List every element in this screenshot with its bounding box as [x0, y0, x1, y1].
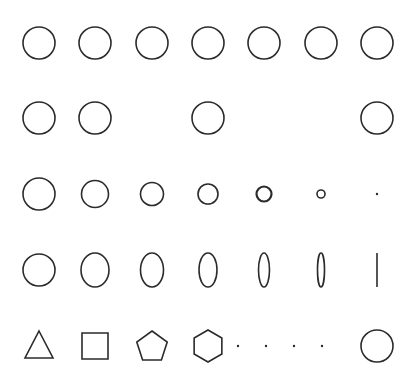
pentagon-shape	[137, 331, 167, 360]
circle-shape	[136, 27, 168, 59]
row-shrinking-circles	[23, 178, 378, 210]
circle-shape	[192, 27, 224, 59]
ellipse-shape	[259, 253, 270, 287]
ellipse-shape	[199, 253, 217, 287]
circle-shape	[82, 181, 109, 208]
ellipse-shape	[81, 253, 109, 287]
circle-shape	[23, 178, 55, 210]
ellipsis-dot	[321, 345, 323, 347]
circle-shape	[141, 183, 164, 206]
row-full-circles	[23, 27, 393, 59]
circle-shape	[317, 190, 325, 198]
dot-shape	[376, 193, 378, 195]
circle-shape	[192, 102, 224, 134]
circle-shape	[79, 102, 111, 134]
diagram-svg	[0, 0, 419, 385]
circle-shape	[23, 254, 55, 286]
ellipsis-dot	[293, 345, 295, 347]
circle-shape	[79, 27, 111, 59]
ellipse-shape	[318, 253, 325, 287]
ellipsis-dot	[237, 345, 239, 347]
circle-shape	[248, 27, 280, 59]
circle-shape	[257, 187, 272, 202]
square-shape	[82, 333, 108, 359]
circle-shape	[361, 27, 393, 59]
circle-shape	[198, 184, 218, 204]
hexagon-shape	[194, 330, 222, 362]
circle-shape	[23, 27, 55, 59]
row-polygons-to-circle	[25, 330, 393, 362]
row-flattening-ellipses	[23, 253, 377, 287]
shape-diagram	[0, 0, 419, 385]
circle-shape	[305, 27, 337, 59]
circle-shape	[361, 330, 393, 362]
circle-shape	[23, 102, 55, 134]
ellipse-shape	[141, 253, 164, 287]
row-missing-circles	[23, 102, 393, 134]
circle-shape	[361, 102, 393, 134]
triangle-shape	[25, 331, 53, 358]
ellipsis-dot	[265, 345, 267, 347]
